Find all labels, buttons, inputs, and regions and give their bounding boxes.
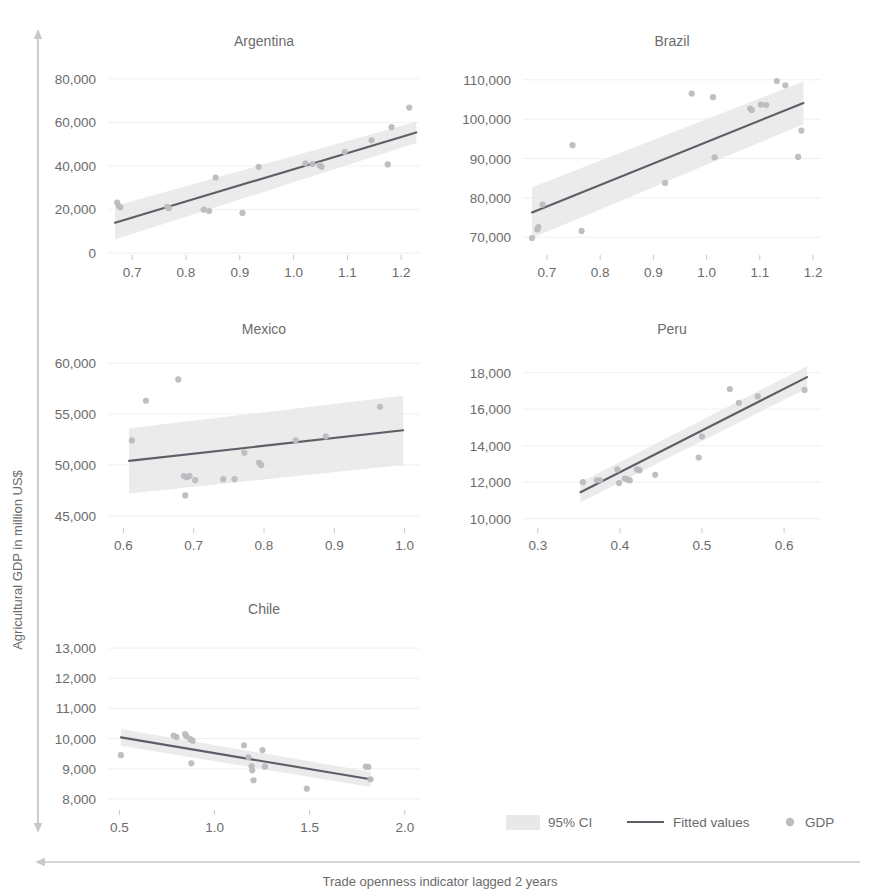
x-tick-label: 0.6 xyxy=(775,538,794,553)
data-point xyxy=(580,479,586,485)
data-point xyxy=(782,82,788,88)
data-point xyxy=(569,142,575,148)
data-point xyxy=(535,224,541,230)
x-axis-title: Trade openness indicator lagged 2 years xyxy=(322,874,558,889)
data-point xyxy=(798,127,804,133)
data-point xyxy=(188,760,194,766)
y-tick-label: 100,000 xyxy=(462,112,511,127)
y-tick-label: 12,000 xyxy=(470,475,511,490)
data-point xyxy=(304,786,310,792)
data-point xyxy=(795,154,801,160)
data-point xyxy=(696,454,702,460)
legend-swatch-gdp-marker xyxy=(786,818,794,826)
x-tick-label: 0.7 xyxy=(123,265,142,280)
y-tick-label: 12,000 xyxy=(55,671,96,686)
y-tick-label: 8,000 xyxy=(62,792,96,807)
data-point xyxy=(662,180,668,186)
data-point xyxy=(173,734,179,740)
data-point xyxy=(192,477,198,483)
data-point xyxy=(323,433,329,439)
data-point xyxy=(616,480,622,486)
legend-label-fitted-values: Fitted values xyxy=(673,815,750,830)
panel-title-peru: Peru xyxy=(657,321,687,337)
data-point xyxy=(250,777,256,783)
fitted-line xyxy=(580,377,807,492)
data-point xyxy=(190,738,196,744)
data-point xyxy=(763,102,769,108)
data-point xyxy=(318,164,324,170)
data-point xyxy=(636,467,642,473)
x-tick-label: 1.1 xyxy=(338,265,357,280)
data-point xyxy=(699,433,705,439)
panel-mexico: 0.60.70.80.91.045,00050,00055,00060,000M… xyxy=(55,321,420,553)
data-point xyxy=(755,393,761,399)
x-tick-label: 0.8 xyxy=(255,538,274,553)
y-tick-label: 9,000 xyxy=(62,762,96,777)
data-point xyxy=(614,466,620,472)
data-point xyxy=(166,205,172,211)
panel-argentina: 0.70.80.91.01.11.2020,00040,00060,00080,… xyxy=(55,33,420,280)
x-tick-label: 1.2 xyxy=(804,265,823,280)
x-tick-label: 1.0 xyxy=(284,265,303,280)
data-point xyxy=(302,160,308,166)
x-tick-label: 1.5 xyxy=(300,820,319,835)
x-tick-label: 0.5 xyxy=(693,538,712,553)
data-point xyxy=(231,476,237,482)
y-tick-label: 60,000 xyxy=(55,356,96,371)
y-tick-label: 11,000 xyxy=(56,701,96,716)
data-point xyxy=(578,228,584,234)
x-tick-label: 0.7 xyxy=(184,538,203,553)
figure-root: 0.70.80.91.01.11.2020,00040,00060,00080,… xyxy=(0,0,870,896)
y-tick-label: 13,000 xyxy=(55,641,96,656)
y-tick-label: 55,000 xyxy=(55,407,96,422)
data-point xyxy=(262,764,268,770)
panel-chile: 0.51.01.52.08,0009,00010,00011,00012,000… xyxy=(55,601,420,835)
data-point xyxy=(241,450,247,456)
x-tick-label: 1.0 xyxy=(697,265,716,280)
panel-title-mexico: Mexico xyxy=(242,321,287,337)
data-point xyxy=(711,154,717,160)
data-point xyxy=(249,767,255,773)
data-point xyxy=(388,124,394,130)
data-point xyxy=(293,437,299,443)
data-point xyxy=(774,78,780,84)
y-tick-label: 40,000 xyxy=(55,159,96,174)
data-point xyxy=(256,164,262,170)
data-point xyxy=(540,201,546,207)
y-tick-label: 10,000 xyxy=(55,732,96,747)
data-point xyxy=(212,174,218,180)
data-point xyxy=(652,472,658,478)
data-point xyxy=(710,94,716,100)
y-axis-title: Agricultural GDP in million US$ xyxy=(10,469,25,649)
x-tick-label: 0.9 xyxy=(325,538,344,553)
y-tick-label: 20,000 xyxy=(55,202,96,217)
x-tick-label: 0.9 xyxy=(230,265,249,280)
y-tick-label: 70,000 xyxy=(470,230,511,245)
y-tick-label: 18,000 xyxy=(470,366,511,381)
data-point xyxy=(689,90,695,96)
data-point xyxy=(377,404,383,410)
data-point xyxy=(258,462,264,468)
x-tick-label: 0.6 xyxy=(114,538,133,553)
y-tick-label: 50,000 xyxy=(55,458,96,473)
y-tick-label: 90,000 xyxy=(470,152,511,167)
legend-label-ci: 95% CI xyxy=(548,815,592,830)
data-point xyxy=(597,477,603,483)
data-point xyxy=(220,476,226,482)
panel-title-brazil: Brazil xyxy=(654,33,689,49)
data-point xyxy=(129,437,135,443)
legend-label-gdp: GDP xyxy=(805,815,834,830)
data-point xyxy=(309,161,315,167)
y-tick-label: 0 xyxy=(88,246,96,261)
x-tick-label: 0.9 xyxy=(644,265,663,280)
data-point xyxy=(175,376,181,382)
x-tick-label: 0.8 xyxy=(177,265,196,280)
data-point xyxy=(143,398,149,404)
data-point xyxy=(529,235,535,241)
data-point xyxy=(801,387,807,393)
data-point xyxy=(182,492,188,498)
data-point xyxy=(627,477,633,483)
y-tick-label: 80,000 xyxy=(470,191,511,206)
x-tick-label: 0.3 xyxy=(528,538,547,553)
x-tick-label: 1.1 xyxy=(750,265,769,280)
